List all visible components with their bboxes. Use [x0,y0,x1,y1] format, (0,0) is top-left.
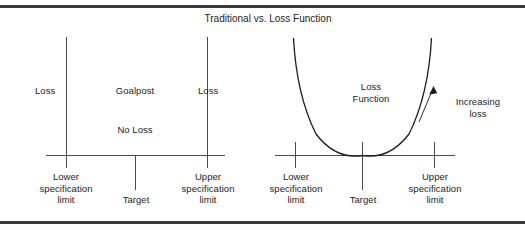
right-upper-spec-limit-label: Upper specification limit [392,171,478,206]
left-goalpost-label: Goalpost [116,85,154,97]
loss-function-label: Loss Function [336,81,406,104]
left-target-label: Target [101,194,171,206]
right-target-label: Target [328,194,398,206]
left-no-loss-label: No Loss [117,124,152,136]
figure-container: Traditional vs. Loss Function [0,0,525,235]
right-panel-geometry [275,38,455,190]
increasing-loss-arrow-head [429,86,437,95]
left-panel-geometry [46,37,225,190]
left-upper-spec-limit-label: Upper specification limit [165,171,251,206]
left-loss-label-upper: Loss [198,85,218,97]
left-loss-label-lower: Loss [35,85,55,97]
right-lower-spec-limit-label: Lower specification limit [253,171,339,206]
left-lower-spec-limit-label: Lower specification limit [23,171,109,206]
increasing-loss-arrow-shaft [419,91,432,122]
increasing-loss-label: Increasing loss [443,96,513,119]
